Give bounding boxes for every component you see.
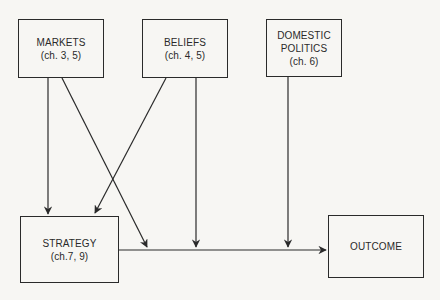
- node-strategy: STRATEGY (ch.7, 9): [20, 216, 119, 283]
- node-strategy-subtitle: (ch.7, 9): [51, 250, 89, 263]
- node-outcome-title: OUTCOME: [350, 240, 402, 253]
- node-markets-title: MARKETS: [36, 36, 85, 49]
- node-domestic-politics-title-line2: POLITICS: [281, 42, 327, 55]
- node-markets-subtitle: (ch. 3, 5): [41, 49, 81, 62]
- node-domestic-politics-subtitle: (ch. 6): [289, 55, 318, 68]
- edge-beliefs-strategy: [95, 78, 166, 213]
- node-beliefs-subtitle: (ch. 4, 5): [165, 49, 205, 62]
- node-beliefs-title: BELIEFS: [164, 36, 206, 49]
- node-strategy-title: STRATEGY: [43, 237, 97, 250]
- node-domestic-politics: DOMESTIC POLITICS (ch. 6): [266, 19, 342, 77]
- node-beliefs: BELIEFS (ch. 4, 5): [142, 19, 228, 78]
- node-domestic-politics-title-line1: DOMESTIC: [277, 29, 331, 42]
- node-outcome: OUTCOME: [328, 215, 424, 278]
- node-markets: MARKETS (ch. 3, 5): [18, 19, 104, 78]
